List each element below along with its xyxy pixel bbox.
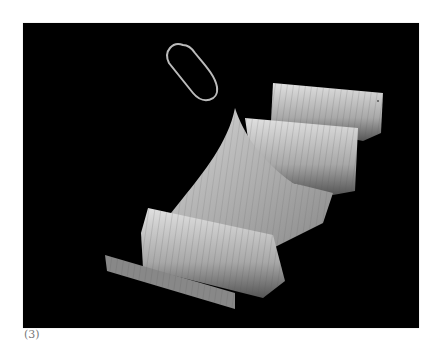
figure-caption: (3) [24, 328, 40, 341]
figure-panel [23, 23, 419, 328]
surface-render [23, 23, 419, 328]
loop-curve [167, 44, 217, 100]
